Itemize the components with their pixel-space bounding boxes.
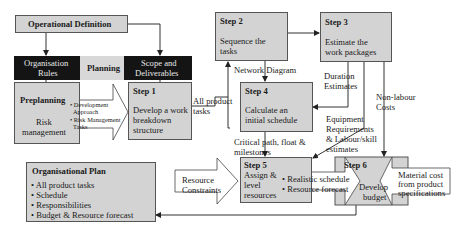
step-3-body-2: work packages bbox=[325, 47, 376, 57]
org-plan-item-4: • Budget & Resource forecast bbox=[31, 210, 133, 220]
preplanning-body-2: management bbox=[22, 127, 66, 137]
organisational-plan-box: Organisational Plan • All product tasks … bbox=[26, 162, 156, 222]
preplanning-box: Preplanning Risk management bbox=[14, 82, 80, 144]
label-non-labour-1: Non-labour bbox=[376, 92, 416, 102]
label-non-labour-2: Costs bbox=[376, 102, 395, 112]
resource-constraints-2: Constraints bbox=[182, 185, 221, 195]
label-equipment-4: estimates bbox=[326, 144, 358, 154]
org-plan-item-2: • Schedule bbox=[31, 190, 68, 200]
operational-definition-title: Operational Definition bbox=[28, 19, 111, 29]
label-equipment-1: Equipment bbox=[326, 114, 364, 124]
step-5-body-3: resources bbox=[244, 190, 276, 200]
label-duration-1: Duration bbox=[324, 71, 355, 81]
step-6-title: Step 6 bbox=[344, 160, 367, 170]
step-5-body-1: Assign & bbox=[244, 170, 277, 180]
step-6-body-1: Develop bbox=[359, 182, 388, 192]
step5-output-1: • Realistic schedule bbox=[282, 174, 349, 184]
step-3-body-1: Estimate the bbox=[325, 37, 368, 47]
preplanning-title: Preplanning bbox=[20, 95, 65, 105]
resource-constraints-1: Resource bbox=[182, 175, 214, 185]
step-5-title: Step 5 bbox=[244, 160, 267, 170]
label-network-diagram: Network Diagram bbox=[234, 65, 296, 75]
step-1-body-3: structure bbox=[133, 125, 163, 135]
label-equipment-2: Requirements bbox=[326, 124, 374, 134]
label-all-product-tasks-2: tasks bbox=[193, 106, 210, 116]
callout-item-2: Approach bbox=[73, 108, 98, 115]
material-cost-3: specifications bbox=[398, 188, 445, 198]
step-3-title: Step 3 bbox=[325, 17, 348, 27]
org-plan-item-3: • Responsibilities bbox=[31, 200, 91, 210]
step-1-title: Step 1 bbox=[133, 86, 156, 96]
label-duration-2: Estimates bbox=[324, 81, 357, 91]
step-4-title: Step 4 bbox=[245, 86, 268, 96]
label-equipment-3: & Labour/skill bbox=[326, 134, 377, 144]
label-all-product-tasks-1: All product bbox=[193, 96, 232, 106]
operational-definition-box: Operational Definition bbox=[15, 15, 128, 33]
band-scope-1: Scope and bbox=[141, 58, 177, 68]
step-2-body-1: Sequence the bbox=[220, 36, 266, 46]
label-critical-path-2: milestones bbox=[234, 147, 271, 157]
preplanning-body-1: Risk bbox=[36, 117, 52, 127]
band-organisation-rules-1: Organisation bbox=[24, 58, 68, 68]
step5-output-2: • Resource forecast bbox=[282, 184, 348, 194]
step-4-box: Step 4 Calculate an initial schedule bbox=[240, 82, 313, 132]
band-planning: Planning bbox=[87, 63, 120, 73]
organisational-plan-title: Organisational Plan bbox=[32, 166, 106, 176]
callout-item-4: Tasks bbox=[73, 123, 87, 130]
band-scope-2: Deliverables bbox=[135, 68, 178, 78]
step-5-body-2: level bbox=[244, 180, 261, 190]
label-critical-path-1: Critical path, float & bbox=[234, 137, 306, 147]
step-1-body-2: breakdown bbox=[133, 115, 171, 125]
step-4-body-1: Calculate an bbox=[245, 105, 288, 115]
step-1-body-1: Develop a work bbox=[133, 105, 188, 115]
org-plan-item-1: • All product tasks bbox=[31, 180, 94, 190]
step-2-body-2: tasks bbox=[220, 46, 237, 56]
step-2-box: Step 2 Sequence the tasks bbox=[215, 12, 288, 61]
band-organisation-rules-2: Rules bbox=[38, 68, 58, 78]
step-2-title: Step 2 bbox=[220, 16, 243, 26]
step-6-body-2: budget bbox=[363, 192, 386, 202]
step-1-box: Step 1 Develop a work breakdown structur… bbox=[128, 82, 192, 140]
step-3-box: Step 3 Estimate the work packages bbox=[320, 12, 392, 62]
step-4-body-2: initial schedule bbox=[245, 115, 297, 125]
